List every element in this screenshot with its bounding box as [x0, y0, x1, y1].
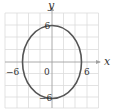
y-axis-label: y [47, 0, 55, 12]
tick-label-y-pos: 6 [45, 21, 51, 31]
tick-label-x-neg: −6 [6, 67, 20, 77]
ellipse-graph: x y −6 0 6 6 −6 [0, 0, 115, 112]
axes [5, 8, 100, 108]
tick-label-origin: 0 [44, 67, 50, 77]
x-axis-label: x [104, 55, 111, 68]
tick-label-y-neg: −6 [39, 93, 53, 103]
tick-label-x-pos: 6 [84, 67, 90, 77]
